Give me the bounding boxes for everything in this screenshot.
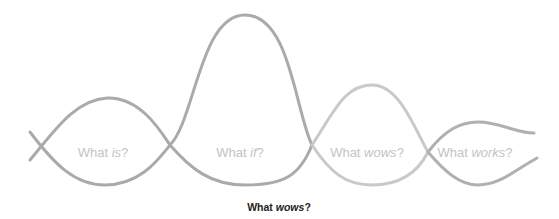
lower-curve xyxy=(30,132,312,185)
phase-label-what-if: What if? xyxy=(216,146,264,159)
upper-curve-wows xyxy=(312,85,428,152)
phase-label-what-wows: What wows? xyxy=(330,146,404,159)
upper-curve xyxy=(30,15,312,160)
phase-label-what-works: What works? xyxy=(437,146,512,159)
phase-label-what-is: What is? xyxy=(78,146,129,159)
diagram-caption: What wows? xyxy=(247,201,311,213)
phases-curve-diagram xyxy=(0,0,559,219)
